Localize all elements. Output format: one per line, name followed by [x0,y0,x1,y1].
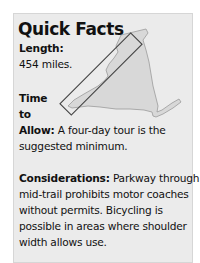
length-value: 454 miles. [19,56,72,72]
considerations-line-2: mid-trail prohibits motor coaches [19,186,189,202]
considerations-line-4: possible in areas where shoulder [19,218,187,234]
considerations-line-1: Considerations: Parkway through [19,170,199,186]
state-outline [68,29,181,117]
considerations-line-5: width allows use. [19,234,107,250]
considerations-line-3: without permits. Bicycling is [19,202,163,218]
quick-facts-title: Quick Facts [18,19,124,39]
time-text-2: suggested minimum. [19,138,128,154]
time-label-1: Time [19,90,47,106]
time-to-allow: Allow: A four-day tour is the [19,122,166,138]
time-label-2: to [19,106,31,122]
length-label: Length: [19,40,64,56]
